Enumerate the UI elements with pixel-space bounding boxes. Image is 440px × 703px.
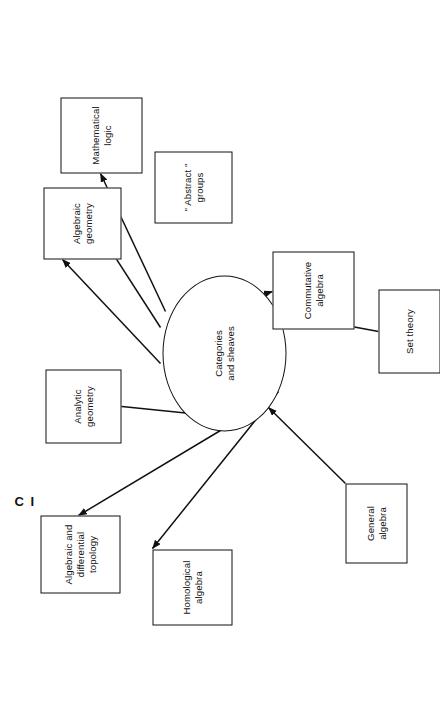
hub-categories-and-sheaves[interactable]: Categories and sheaves bbox=[162, 275, 286, 431]
node-general-algebra[interactable]: General algebra bbox=[345, 483, 407, 563]
node-general-algebra-label: General algebra bbox=[364, 506, 387, 541]
node-mathematical-logic-label: Mathematical logic bbox=[89, 106, 112, 164]
edge-general-algebra-to-hub bbox=[268, 407, 345, 483]
node-algebraic-differential-topology-label: Algebraic and differential topology bbox=[62, 524, 97, 584]
node-homological-algebra[interactable]: Homological algebra bbox=[152, 549, 232, 625]
node-abstract-groups-label: " Abstract " groups bbox=[181, 163, 204, 211]
figure-caption: C I bbox=[14, 493, 35, 508]
node-set-theory[interactable]: Set theory bbox=[378, 289, 440, 373]
node-commutative-algebra[interactable]: Commutative algebra bbox=[272, 251, 354, 329]
node-abstract-groups[interactable]: " Abstract " groups bbox=[154, 151, 232, 223]
node-algebraic-geometry[interactable]: Algebraic geometry bbox=[43, 187, 121, 259]
node-homological-algebra-label: Homological algebra bbox=[180, 560, 203, 614]
figure-caption-text: C I bbox=[14, 493, 35, 508]
node-set-theory-label: Set theory bbox=[403, 309, 415, 354]
edge-hub-to-algebraic-geometry bbox=[62, 259, 160, 363]
node-algebraic-geometry-label: Algebraic geometry bbox=[70, 203, 93, 244]
node-algebraic-differential-topology[interactable]: Algebraic and differential topology bbox=[40, 515, 120, 593]
node-commutative-algebra-label: Commutative algebra bbox=[301, 261, 324, 319]
hub-label: Categories and sheaves bbox=[212, 326, 236, 380]
node-analytic-geometry-label: Analytic geometry bbox=[71, 386, 94, 427]
node-analytic-geometry[interactable]: Analytic geometry bbox=[45, 369, 121, 443]
node-mathematical-logic[interactable]: Mathematical logic bbox=[60, 97, 142, 173]
